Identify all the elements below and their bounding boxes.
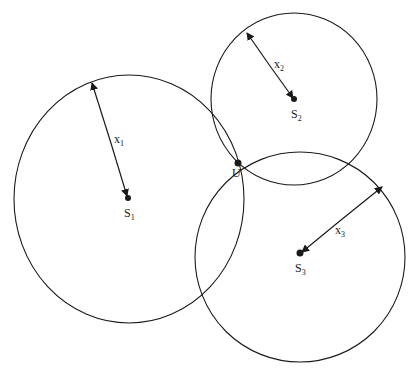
radius-arrow-x2	[247, 33, 270, 66]
center-label-s1: S1	[124, 207, 135, 222]
radius-label-x3: x3	[335, 224, 345, 239]
center-dot-s3	[297, 250, 304, 257]
center-dot-s1	[125, 195, 131, 201]
radius-label-x1: x1	[114, 133, 124, 148]
center-label-s3: S3	[295, 262, 306, 277]
center-dot-s2	[291, 96, 297, 102]
circle-s3	[195, 152, 405, 362]
radius-label-x2: x2	[274, 58, 284, 73]
intersection-label-u: U	[232, 167, 241, 179]
radius-arrow-x3	[341, 187, 382, 220]
trilateration-diagram	[0, 0, 416, 372]
radius-arrow-x1	[92, 83, 110, 140]
center-label-s2: S2	[291, 108, 302, 123]
